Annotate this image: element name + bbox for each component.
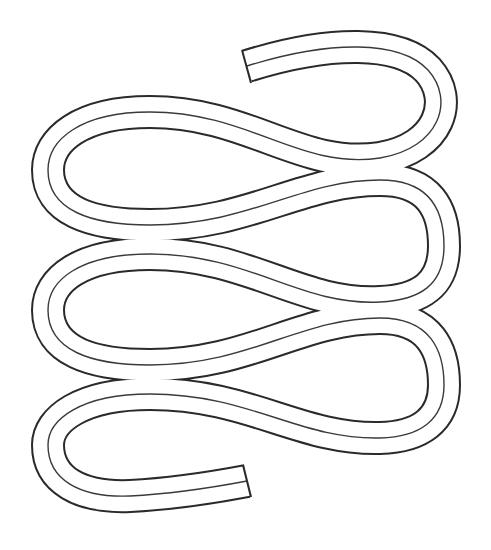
tube-body — [48, 47, 444, 496]
serpentine-tube-illustration — [0, 0, 491, 550]
